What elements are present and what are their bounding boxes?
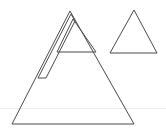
- geometry-figure: [0, 0, 166, 135]
- large-triangle: [12, 11, 134, 124]
- left-sliver-strip: [38, 14, 75, 78]
- figure-canvas: [0, 0, 166, 135]
- small-triangle: [110, 10, 157, 53]
